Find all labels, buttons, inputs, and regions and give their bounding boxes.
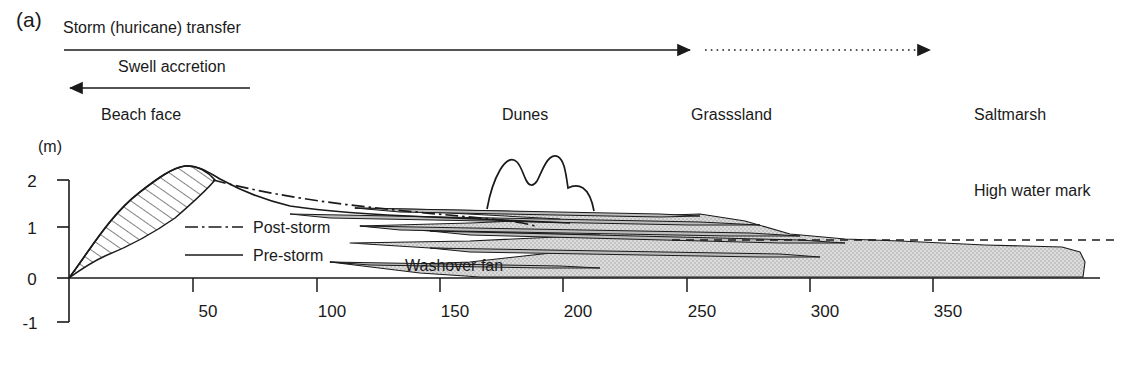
high-water-mark-label: High water mark [974,182,1091,199]
legend: Post-storm Pre-storm [185,219,330,264]
panel-label: (a) [16,8,42,31]
x-tick-250: 250 [688,302,716,321]
x-tick-100: 100 [318,302,346,321]
washover-fan-label: Washover fan [405,257,503,274]
y-tick-0: 0 [27,270,36,289]
swell-accretion-label: Swell accretion [118,58,226,75]
x-tick-50: 50 [199,302,218,321]
coastal-profile-figure: (a) Storm (huricane) transfer Swell accr… [0,0,1142,382]
x-tick-300: 300 [811,302,839,321]
y-axis-unit: (m) [38,138,62,155]
legend-label-post-storm: Post-storm [253,219,330,236]
storm-transfer-label: Storm (huricane) transfer [63,19,242,36]
x-tick-150: 150 [441,302,469,321]
dune-silhouette [487,156,594,211]
beach-face-accretion-wedge [69,166,215,278]
zone-label-grassland: Grasssland [691,106,772,123]
legend-label-pre-storm: Pre-storm [253,247,323,264]
y-tick-1: 1 [27,219,36,238]
x-tick-200: 200 [564,302,592,321]
zone-label-saltmarsh: Saltmarsh [974,106,1046,123]
profile-diagram-svg: (a) Storm (huricane) transfer Swell accr… [0,0,1142,382]
zone-label-beach-face: Beach face [101,106,181,123]
x-tick-350: 350 [934,302,962,321]
zone-label-dunes: Dunes [502,106,548,123]
y-tick-2: 2 [27,172,36,191]
y-tick-minus1: -1 [22,314,37,333]
